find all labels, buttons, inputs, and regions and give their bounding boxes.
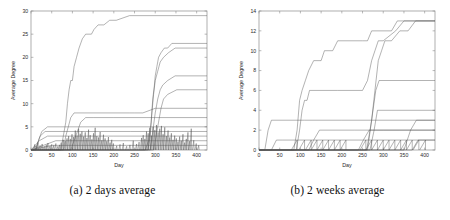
series-line: [259, 21, 435, 150]
x-tick-label: 400: [192, 152, 201, 158]
baseline-spike: [99, 132, 101, 150]
baseline-spike: [193, 140, 195, 150]
baseline-spike: [45, 145, 47, 150]
baseline-ramp: [317, 140, 323, 150]
x-tick-label: 250: [358, 152, 367, 158]
x-tick-label: 150: [89, 152, 98, 158]
baseline-spike: [165, 136, 167, 150]
baseline-spike: [168, 137, 170, 150]
x-tick-label: 0: [258, 152, 261, 158]
baseline-spike: [115, 146, 117, 150]
caption-b: (b) 2 weeks average: [225, 184, 450, 196]
x-tick-label: 50: [49, 152, 55, 158]
series-line: [31, 43, 207, 150]
baseline-spike: [72, 137, 74, 150]
x-tick-label: 300: [151, 152, 160, 158]
baseline-spike: [154, 130, 156, 150]
x-tick-label: 350: [400, 152, 409, 158]
baseline-spike: [96, 136, 98, 150]
x-tick-label: 150: [317, 152, 326, 158]
y-tick-label: 12: [250, 28, 256, 34]
baseline-ramp: [413, 140, 419, 150]
series-line: [31, 48, 207, 150]
baseline-spike: [135, 144, 137, 150]
baseline-spike: [125, 146, 127, 150]
figure-root: 050100150200250300350400051015202530DayA…: [0, 0, 450, 220]
baseline-spike: [182, 134, 184, 150]
panel-a-2-days-average: 050100150200250300350400051015202530DayA…: [0, 0, 225, 220]
baseline-ramp: [389, 140, 395, 150]
baseline-spike: [162, 134, 164, 150]
baseline-spike: [53, 145, 55, 150]
baseline-spike: [183, 143, 185, 150]
y-tick-label: 4: [253, 107, 256, 113]
x-tick-label: 400: [420, 152, 429, 158]
y-tick-label: 6: [253, 87, 256, 93]
baseline-spike: [92, 133, 94, 150]
baseline-spike: [94, 128, 96, 150]
y-tick-label: 14: [250, 8, 256, 14]
baseline-spike: [39, 145, 41, 150]
baseline-spike: [147, 133, 149, 150]
plot-area-a: 050100150200250300350400051015202530DayA…: [0, 0, 225, 182]
series-line: [259, 120, 435, 150]
baseline-spike: [167, 131, 169, 150]
baseline-spike: [102, 135, 104, 150]
x-tick-label: 200: [109, 152, 118, 158]
chart-a-svg: 050100150200250300350400051015202530DayA…: [0, 0, 225, 182]
baseline-ramp: [406, 140, 412, 150]
baseline-spike: [172, 140, 174, 150]
y-tick-label: 15: [22, 77, 28, 83]
baseline-spike: [101, 140, 103, 150]
baseline-spike: [157, 132, 159, 150]
baseline-spike: [49, 146, 51, 150]
series-line: [31, 90, 207, 150]
x-tick-label: 50: [277, 152, 283, 158]
baseline-spike: [195, 144, 197, 150]
x-tick-label: 350: [172, 152, 181, 158]
y-axis-title: Average Degree: [10, 61, 16, 100]
x-tick-label: 200: [337, 152, 346, 158]
y-tick-label: 25: [22, 31, 28, 37]
baseline-spike: [138, 142, 140, 150]
series-line: [31, 16, 207, 150]
baseline-spike: [164, 127, 166, 150]
baseline-spike: [173, 136, 175, 150]
baseline-spike: [64, 141, 66, 150]
panel-b-2-weeks-average: 05010015020025030035040002468101214DayAv…: [225, 0, 450, 220]
baseline-spike: [112, 144, 114, 150]
baseline-spike: [122, 143, 124, 150]
baseline-spike: [84, 132, 86, 150]
baseline-spike: [187, 132, 189, 150]
baseline-ramp: [377, 140, 383, 150]
baseline-spike: [142, 135, 144, 150]
baseline-spike: [67, 136, 69, 150]
x-axis-title: Day: [342, 162, 352, 168]
plot-frame: [31, 11, 207, 150]
y-tick-label: 10: [22, 101, 28, 107]
baseline-ramp: [305, 140, 311, 150]
baseline-ramp: [329, 140, 335, 150]
y-tick-label: 30: [22, 8, 28, 14]
baseline-spike: [160, 126, 162, 150]
caption-a: (a) 2 days average: [0, 184, 225, 196]
baseline-spike: [58, 145, 60, 150]
baseline-ramp: [383, 140, 389, 150]
baseline-spike: [86, 138, 88, 150]
baseline-spike: [104, 138, 106, 150]
series-line: [259, 120, 435, 150]
baseline-spike: [82, 137, 84, 150]
baseline-ramp: [395, 140, 401, 150]
baseline-spike: [159, 129, 161, 150]
baseline-spike: [57, 146, 59, 150]
baseline-spike: [66, 138, 68, 150]
baseline-spike: [177, 142, 179, 150]
baseline-spike: [89, 135, 91, 150]
series-line: [259, 140, 435, 150]
baseline-spike: [197, 145, 199, 150]
baseline-ramp: [311, 140, 317, 150]
baseline-spike: [190, 129, 192, 150]
baseline-spike: [188, 141, 190, 150]
x-axis-title: Day: [114, 162, 124, 168]
baseline-spike: [106, 141, 108, 150]
